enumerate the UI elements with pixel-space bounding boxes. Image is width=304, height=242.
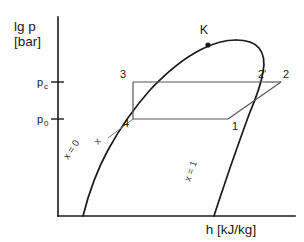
critical-point-marker [205, 42, 210, 47]
y-axis-label-line2: [bar] [14, 34, 41, 49]
state-point-label-2prime: 2' [258, 68, 266, 80]
tick-label-evaporating-pressure-sub: 0 [44, 119, 49, 128]
saturated-liquid-label: x = 0 [61, 138, 82, 161]
lgp-h-diagram-root: lg p [bar] h [kJ/kg] p c p 0 x = 0 x = 1… [0, 0, 304, 242]
state-point-label-3: 3 [120, 68, 126, 80]
quality-leader-label: x [91, 135, 103, 146]
cycle-line-compression [228, 82, 281, 119]
state-point-label-4: 4 [123, 117, 129, 129]
x-axis-label: h [kJ/kg] [206, 222, 256, 237]
quality-leader-line [108, 119, 133, 138]
saturated-vapour-label: x = 1 [182, 159, 199, 182]
tick-label-critical-pressure-sub: c [44, 82, 48, 91]
tick-label-evaporating-pressure: p [37, 113, 43, 125]
tick-label-critical-pressure: p [37, 76, 43, 88]
state-point-label-2: 2 [283, 68, 289, 80]
state-point-label-1: 1 [232, 120, 238, 132]
critical-point-label: K [200, 23, 209, 37]
saturated-vapour-curve [214, 40, 264, 216]
lgp-h-diagram-canvas: lg p [bar] h [kJ/kg] p c p 0 x = 0 x = 1… [0, 0, 304, 242]
y-axis-label-line1: lg p [14, 19, 36, 34]
saturated-liquid-curve [83, 40, 236, 216]
